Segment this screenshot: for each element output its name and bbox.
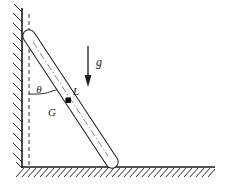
ground-group [16,167,215,177]
gravity-arrow-head [85,75,92,87]
ground-hatching [16,168,215,177]
wall-group [13,4,22,168]
physics-diagram-figure: θ g L G [0,0,230,185]
rod-length-label: L [72,85,79,97]
wall-hatching [13,4,22,168]
diagram-canvas: θ g L G [0,0,230,185]
gravity-label: g [96,55,102,69]
gravity-arrow [85,46,92,87]
center-of-mass-dot [66,98,71,103]
angle-label: θ [36,83,42,95]
center-of-mass-label: G [48,106,56,118]
